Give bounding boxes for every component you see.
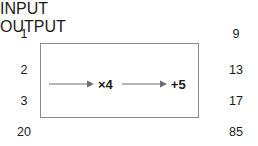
right-arrow-icon: [49, 78, 95, 90]
right-arrow-icon: [122, 78, 168, 90]
input-value: 2: [6, 64, 42, 77]
input-value: 1: [6, 28, 42, 41]
input-value: 3: [6, 95, 42, 108]
output-value: 9: [218, 28, 254, 41]
operation-sequence: ×4 +5: [41, 74, 198, 94]
input-value: 20: [6, 126, 42, 139]
output-value: 85: [218, 126, 254, 139]
input-column-header: INPUT: [0, 0, 258, 18]
operation-label-add: +5: [171, 78, 186, 91]
function-machine-diagram: INPUT OUTPUT 1 2 3 20 9 13 17 85 ×4 +5: [0, 0, 258, 146]
output-value: 17: [218, 95, 254, 108]
output-value: 13: [218, 64, 254, 77]
machine-box: ×4 +5: [40, 43, 199, 118]
operation-label-multiply: ×4: [98, 78, 113, 91]
